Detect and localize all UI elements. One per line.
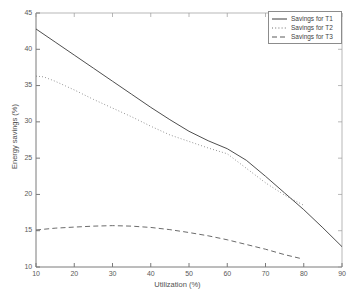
legend-item-t3: Savings for T3 [271, 32, 339, 41]
x-tick-label: 10 [26, 270, 46, 277]
x-tick-label: 80 [294, 270, 314, 277]
series-line-2 [36, 76, 304, 205]
legend-item-t2: Savings for T2 [271, 23, 339, 32]
chart-figure: 1015202530354045 102030405060708090 Util… [0, 0, 355, 296]
series-line-1 [36, 29, 342, 247]
y-tick-label: 40 [10, 45, 32, 52]
legend-item-t1: Savings for T1 [271, 14, 339, 23]
plot-canvas [0, 0, 355, 296]
axes-frame [36, 13, 342, 267]
x-tick-label: 30 [103, 270, 123, 277]
x-tick-label: 60 [217, 270, 237, 277]
axis-ticks [36, 13, 342, 267]
x-tick-label: 40 [141, 270, 161, 277]
legend-label-t2: Savings for T2 [291, 24, 333, 32]
y-axis-label: Energy savings (%) [10, 87, 19, 187]
y-tick-label: 10 [10, 263, 32, 270]
y-tick-label: 15 [10, 226, 32, 233]
legend-label-t1: Savings for T1 [291, 15, 333, 23]
y-tick-label: 20 [10, 190, 32, 197]
legend-swatch-solid-icon [271, 15, 288, 23]
x-axis-label: Utilization (%) [0, 280, 355, 289]
chart-legend: Savings for T1 Savings for T2 Savings fo… [268, 11, 342, 44]
legend-swatch-dashed-icon [271, 33, 288, 41]
x-tick-label: 20 [64, 270, 84, 277]
data-series [36, 29, 342, 258]
x-tick-label: 70 [256, 270, 276, 277]
x-tick-label: 90 [332, 270, 352, 277]
series-line-3 [36, 226, 300, 259]
y-tick-label: 45 [10, 9, 32, 16]
legend-swatch-dotted-icon [271, 24, 288, 32]
x-tick-label: 50 [179, 270, 199, 277]
legend-label-t3: Savings for T3 [291, 33, 333, 41]
